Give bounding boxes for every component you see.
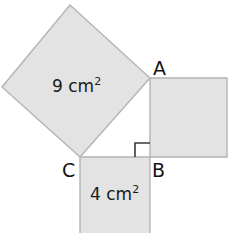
vertical-leg-square xyxy=(150,78,227,157)
geometry-figure: 9 cm2 4 cm2 A B C xyxy=(0,0,238,233)
vertex-label-a: A xyxy=(153,57,166,79)
area-label-horizontal-exponent: 2 xyxy=(132,183,139,196)
area-label-horizontal-square: 4 cm2 xyxy=(90,183,139,204)
right-angle-marker xyxy=(135,143,150,157)
area-label-hypotenuse-square: 9 cm2 xyxy=(52,75,101,96)
geometry-canvas: 9 cm2 4 cm2 A B C xyxy=(0,0,238,233)
area-label-hypotenuse-text: 9 cm xyxy=(52,76,94,96)
area-label-hypotenuse-exponent: 2 xyxy=(94,75,101,88)
area-label-horizontal-text: 4 cm xyxy=(90,184,132,204)
vertex-label-c: C xyxy=(62,159,75,181)
vertex-label-b: B xyxy=(152,159,165,181)
